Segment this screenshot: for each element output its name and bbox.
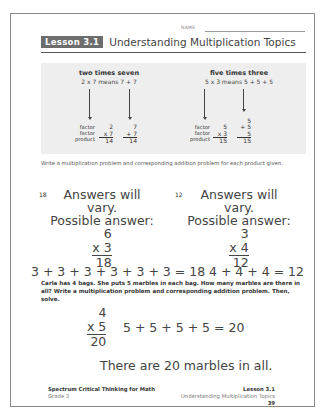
addition-column: 7 + 7 14 (123, 124, 137, 145)
arrow-down-icon (89, 89, 90, 117)
addition-answer: 5 + 5 + 5 + 5 = 20 (123, 320, 244, 335)
example-title: five times three (179, 69, 299, 77)
arrow-down-icon (243, 89, 244, 109)
addition-column: 5 + 5 5 15 (237, 118, 251, 145)
footer-right: Lesson 3.1 Understanding Multiplication … (181, 386, 275, 407)
factor-labels: factor factor product (61, 124, 95, 142)
footer-left: Spectrum Critical Thinking for Math Grad… (48, 386, 155, 400)
addition-answer: 4 + 4 + 4 = 12 (209, 264, 304, 279)
answer-note: Answers will vary. Possible answer: 6 x … (47, 188, 157, 271)
worksheet-page: NAME Lesson 3.1 Understanding Multiplica… (10, 13, 315, 407)
answer-note: Answers will vary. Possible answer: 3 x … (184, 188, 294, 271)
name-field-line (205, 31, 305, 32)
example-subtitle: 5 x 3 means 5 + 5 + 5 (179, 78, 299, 85)
page-number: 39 (181, 400, 275, 407)
instructions: Write a multiplication problem and corre… (41, 159, 307, 167)
lesson-badge: Lesson 3.1 (41, 36, 103, 48)
factor-labels: factor factor product (176, 124, 210, 142)
final-answer: There are 20 marbles in all. (100, 358, 272, 373)
grade-label: Grade 3 (48, 393, 155, 400)
example-five-times-three: five times three 5 x 3 means 5 + 5 + 5 (179, 69, 299, 85)
problem-number: 12 (175, 191, 183, 198)
addition-answer: 3 + 3 + 3 + 3 + 3 + 3 = 18 (31, 264, 205, 279)
name-label: NAME (181, 25, 301, 30)
footer-lesson: Lesson 3.1 (181, 386, 275, 393)
lesson-header: Lesson 3.1 Understanding Multiplication … (41, 36, 306, 53)
arrow-down-icon (129, 89, 130, 117)
example-title: two times seven (49, 69, 169, 77)
multiplication-column: 2 x 7 14 (99, 124, 113, 145)
book-title: Spectrum Critical Thinking for Math (48, 386, 155, 393)
example-box: two times seven 2 x 7 means 7 + 7 factor… (41, 63, 306, 154)
word-problem: Carla has 4 bags. She puts 5 marbles in … (41, 279, 309, 303)
multiplication-column: 5 x 3 15 (213, 124, 227, 145)
problem-number: 18 (39, 191, 47, 198)
example-subtitle: 2 x 7 means 7 + 7 (49, 78, 169, 85)
page-title: Understanding Multiplication Topics (109, 36, 295, 48)
arrow-down-icon (204, 89, 205, 117)
footer-topic: Understanding Multiplication Topics (181, 393, 275, 400)
multiplication-answer: 4 x 5 20 (87, 306, 106, 349)
example-two-times-seven: two times seven 2 x 7 means 7 + 7 (49, 69, 169, 85)
